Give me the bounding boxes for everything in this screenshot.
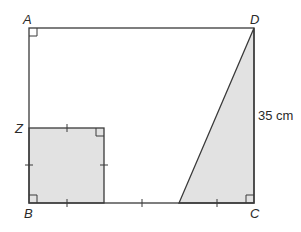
label-d: D: [250, 12, 259, 27]
label-b: B: [24, 206, 33, 221]
label-c: C: [250, 206, 260, 221]
right-angle-a-icon: [29, 28, 37, 36]
geometry-diagram: A D Z B C 35 cm: [0, 0, 301, 232]
shaded-triangle: [179, 28, 254, 203]
shaded-square: [29, 128, 104, 203]
dimension-label: 35 cm: [258, 108, 293, 123]
label-a: A: [22, 12, 32, 27]
label-z: Z: [14, 121, 24, 136]
